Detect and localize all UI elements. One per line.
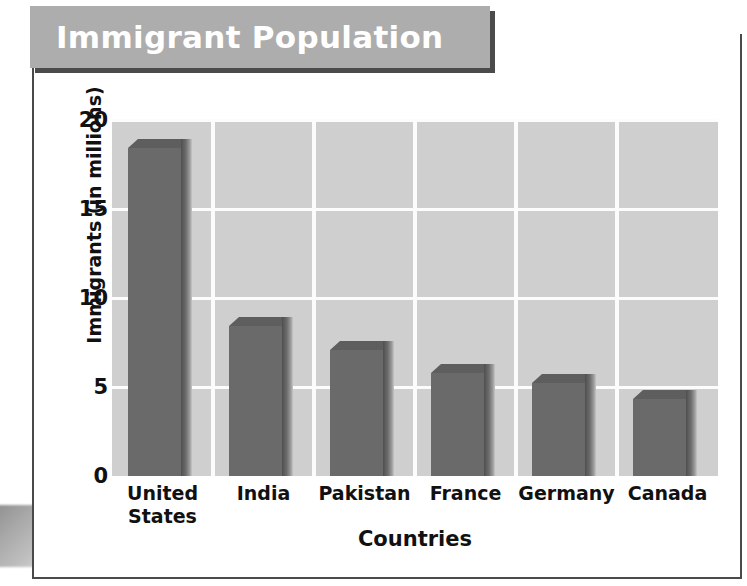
- page-title: Immigrant Population: [30, 19, 443, 55]
- bar: [229, 326, 282, 476]
- bar: [128, 148, 181, 476]
- bar-side-face: [484, 364, 495, 476]
- y-axis-tick-label: 0: [93, 464, 108, 488]
- bar: [532, 383, 585, 476]
- bar-group: [112, 120, 213, 476]
- x-axis-tick-label-line: Canada: [617, 482, 718, 505]
- x-axis-tick-label: Germany: [516, 482, 617, 505]
- x-axis-title: Countries: [112, 527, 718, 551]
- bar-side-face: [282, 317, 293, 476]
- y-axis-tick-label: 20: [79, 108, 108, 132]
- bar-chart: Immigrants (in millions) 05101520 United…: [32, 34, 747, 586]
- x-axis-tick-label: France: [415, 482, 516, 505]
- x-axis-tick-label: India: [213, 482, 314, 505]
- bar: [633, 399, 686, 476]
- x-axis-tick-label: Canada: [617, 482, 718, 505]
- x-axis-tick-label-line: United: [112, 482, 213, 505]
- bar-group: [213, 120, 314, 476]
- bar-group: [415, 120, 516, 476]
- x-axis-tick-label: Pakistan: [314, 482, 415, 505]
- bar: [330, 350, 383, 476]
- x-axis-tick-label-line: France: [415, 482, 516, 505]
- bar-side-face: [383, 341, 394, 476]
- x-axis-tick-label-line: India: [213, 482, 314, 505]
- chart-title-banner: Immigrant Population: [30, 6, 490, 68]
- y-axis-tick-label: 5: [93, 375, 108, 399]
- bar-side-face: [686, 390, 697, 476]
- bar-side-face: [585, 374, 596, 476]
- x-axis-tick-label-line: States: [112, 505, 213, 528]
- x-axis-tick-label-line: Germany: [516, 482, 617, 505]
- y-axis-tick-labels: 05101520: [60, 120, 108, 476]
- bar-side-face: [181, 139, 192, 476]
- bar-group: [314, 120, 415, 476]
- bar-group: [617, 120, 718, 476]
- bar-group: [516, 120, 617, 476]
- plot-area: [112, 120, 718, 476]
- y-axis-tick-label: 10: [79, 286, 108, 310]
- y-axis-tick-label: 15: [79, 197, 108, 221]
- bar: [431, 373, 484, 476]
- x-axis-tick-label: UnitedStates: [112, 482, 213, 528]
- x-axis-tick-label-line: Pakistan: [314, 482, 415, 505]
